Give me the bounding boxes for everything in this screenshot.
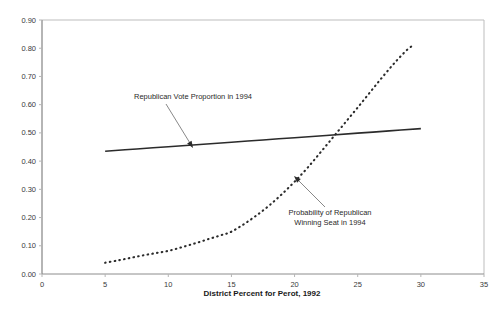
annotation-text-line1: Republican Vote Proportion in 1994	[134, 92, 252, 101]
y-tick-label: 0.00	[21, 270, 36, 279]
chart-plot: 0.000.100.200.300.400.500.600.700.800.90…	[0, 0, 503, 317]
x-tick-label: 5	[103, 280, 107, 289]
x-tick-label: 25	[354, 280, 362, 289]
x-axis-title: District Percent for Perot, 1992	[204, 289, 321, 298]
x-tick-label: 15	[227, 280, 235, 289]
x-tick-label: 0	[40, 280, 44, 289]
annotation-text-line1: Probability of Republican	[289, 208, 372, 217]
y-tick-label: 0.80	[21, 44, 36, 53]
y-tick-label: 0.40	[21, 157, 36, 166]
y-tick-label: 0.90	[21, 16, 36, 25]
chart-container: 0.000.100.200.300.400.500.600.700.800.90…	[0, 0, 503, 317]
x-tick-label: 35	[480, 280, 488, 289]
chart-background	[0, 0, 503, 317]
x-tick-label: 10	[164, 280, 172, 289]
y-tick-label: 0.10	[21, 241, 36, 250]
x-tick-label: 30	[417, 280, 425, 289]
y-tick-label: 0.60	[21, 100, 36, 109]
y-tick-label: 0.20	[21, 213, 36, 222]
annotation-text-line2: Winning Seat in 1994	[294, 218, 365, 227]
y-tick-label: 0.30	[21, 185, 36, 194]
annotation-text: Republican Vote Proportion in 1994	[134, 92, 252, 101]
annotation-text: Probability of RepublicanWinning Seat in…	[289, 208, 372, 227]
x-tick-label: 20	[290, 280, 298, 289]
y-tick-label: 0.70	[21, 72, 36, 81]
y-tick-label: 0.50	[21, 128, 36, 137]
